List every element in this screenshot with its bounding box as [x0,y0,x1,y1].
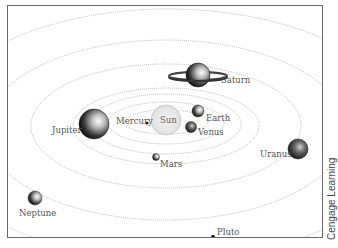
pluto-icon [211,235,215,238]
diagram-frame: Sun Mercury Venus Earth Mars Jupiter Sat… [7,5,323,238]
label-pluto: Pluto [217,228,239,237]
label-venus: Venus [198,128,224,137]
label-saturn: Saturn [221,76,250,85]
venus-icon [186,122,197,133]
mars-icon [153,154,160,161]
label-mars: Mars [160,160,182,169]
label-jupiter: Jupiter [52,126,82,135]
label-earth: Earth [206,114,230,123]
jupiter-icon [79,109,109,139]
label-neptune: Neptune [19,209,56,218]
label-uranus: Uranus [260,150,292,159]
label-sun: Sun [160,116,177,125]
label-mercury: Mercury [116,117,153,126]
earth-icon [192,105,204,117]
saturn-icon [186,63,210,87]
image-credit: Cengage Learning [326,158,337,240]
neptune-icon [28,191,42,205]
